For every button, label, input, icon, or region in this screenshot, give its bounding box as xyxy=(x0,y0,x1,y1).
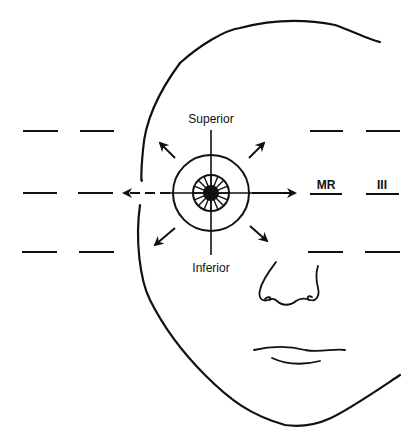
jaw-line xyxy=(138,205,400,426)
arrow-up-left xyxy=(160,143,175,158)
temple-line xyxy=(141,63,180,181)
eye-movement-diagram: Superior Inferior MR III xyxy=(0,0,418,448)
arrow-up-right xyxy=(249,143,264,158)
eye xyxy=(170,130,252,255)
mouth xyxy=(254,347,345,364)
nose xyxy=(259,262,318,305)
medial-rectus-label: MR xyxy=(317,178,336,192)
nerve-label: III xyxy=(377,178,387,192)
forehead-line xyxy=(180,21,380,63)
superior-label: Superior xyxy=(188,112,233,126)
arrow-down-right xyxy=(250,226,267,241)
inferior-label: Inferior xyxy=(192,261,229,275)
arrow-down-left xyxy=(155,228,175,245)
face-outline xyxy=(138,21,400,426)
